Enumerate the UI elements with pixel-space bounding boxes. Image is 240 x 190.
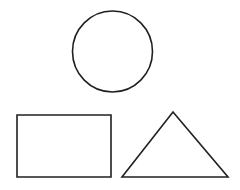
- shapes-canvas: [0, 0, 240, 190]
- canvas-background: [0, 0, 240, 190]
- shapes-drawing: [0, 0, 240, 190]
